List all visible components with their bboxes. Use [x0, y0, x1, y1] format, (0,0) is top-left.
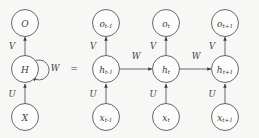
folded-hidden-node-label: H: [20, 65, 29, 75]
folded-input-node-label: X: [21, 113, 29, 123]
folded-label-V: V: [9, 41, 16, 51]
folded-label-W: W: [51, 63, 61, 73]
step2-label-U: U: [208, 89, 216, 99]
step1-label-V: V: [150, 41, 157, 51]
step1-label-U: U: [149, 89, 157, 99]
folded-output-node-label: O: [21, 19, 29, 29]
step0-label-U: U: [89, 89, 97, 99]
diagram-canvas: O H X V U W = ot-1 ht-1 xt-1 V U W ot ht…: [0, 0, 259, 138]
equals-sign: =: [70, 64, 78, 74]
rnn-unfolding-figure: O H X V U W = ot-1 ht-1 xt-1 V U W ot ht…: [0, 0, 259, 138]
step1-label-W: W: [192, 51, 202, 61]
folded-label-U: U: [8, 89, 16, 99]
step2-label-V: V: [209, 41, 216, 51]
step0-label-W: W: [132, 51, 142, 61]
step0-label-V: V: [90, 41, 97, 51]
